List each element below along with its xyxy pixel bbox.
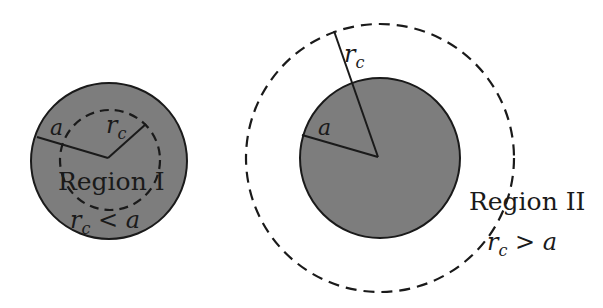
region-one-label: Region I	[58, 167, 165, 196]
label-a-right: a	[318, 115, 331, 140]
conductor-disk-right	[300, 78, 460, 238]
region-one-condition: rc < a	[70, 206, 140, 238]
cylinder-regions-diagram: a rc Region I rc < a a rc Region II rc >…	[0, 0, 603, 308]
label-rc-right: rc	[344, 40, 364, 72]
region-two-figure: a rc Region II rc > a	[246, 24, 585, 292]
region-two-label: Region II	[469, 187, 585, 216]
region-two-condition: rc > a	[487, 228, 557, 260]
label-a-left: a	[50, 115, 63, 140]
region-one-figure: a rc Region I rc < a	[31, 83, 187, 239]
